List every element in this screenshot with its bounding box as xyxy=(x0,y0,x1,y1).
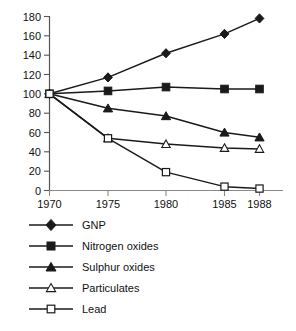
legend-item-gnp: GNP xyxy=(0,214,296,235)
x-axis-tick-labels: 1970 1975 1980 1985 1988 xyxy=(37,198,271,210)
y-tick-label: 140 xyxy=(23,49,41,61)
y-tick-label: 80 xyxy=(29,107,41,119)
data-point xyxy=(255,14,264,23)
data-point xyxy=(104,135,111,142)
legend-key-filled-square-icon xyxy=(28,238,74,254)
chart-canvas: 180 160 140 120 100 80 60 40 20 0 xyxy=(0,0,296,215)
legend-label: Sulphur oxides xyxy=(74,259,155,275)
y-tick-label: 40 xyxy=(29,146,41,158)
x-tick-label: 1985 xyxy=(212,198,236,210)
data-point xyxy=(162,169,169,176)
data-point xyxy=(104,87,112,95)
y-tick-label: 120 xyxy=(23,69,41,81)
legend-key-filled-triangle-icon xyxy=(28,259,74,275)
x-tick-label: 1975 xyxy=(96,198,120,210)
footer-text-fragment xyxy=(0,324,296,331)
legend-label: Nitrogen oxides xyxy=(74,238,158,254)
series-particulates xyxy=(45,90,263,153)
y-tick-label: 100 xyxy=(23,88,41,100)
series-layer xyxy=(45,14,264,192)
legend-label: Particulates xyxy=(74,280,139,296)
figure: 180 160 140 120 100 80 60 40 20 0 xyxy=(0,0,296,331)
data-point xyxy=(221,183,228,190)
data-point xyxy=(46,90,53,97)
y-axis-tick-labels: 180 160 140 120 100 80 60 40 20 0 xyxy=(23,11,41,197)
line-chart: 180 160 140 120 100 80 60 40 20 0 xyxy=(0,0,296,215)
data-point xyxy=(256,85,264,93)
data-point xyxy=(104,73,113,82)
data-point xyxy=(256,185,263,192)
legend-item-particulates: Particulates xyxy=(0,277,296,298)
x-tick-label: 1970 xyxy=(37,198,61,210)
legend-item-sulphur-oxides: Sulphur oxides xyxy=(0,256,296,277)
series-gnp xyxy=(45,14,264,99)
data-point xyxy=(220,29,229,38)
y-tick-label: 20 xyxy=(29,165,41,177)
legend-key-filled-diamond-icon xyxy=(28,217,74,233)
data-point xyxy=(162,83,170,91)
data-point xyxy=(221,85,229,93)
y-axis-ticks xyxy=(44,17,50,191)
legend-key-open-triangle-icon xyxy=(28,280,74,296)
legend-key-open-square-icon xyxy=(28,301,74,317)
y-tick-label: 160 xyxy=(23,30,41,42)
y-tick-label: 60 xyxy=(29,127,41,139)
x-tick-label: 1988 xyxy=(247,198,271,210)
data-point xyxy=(162,49,171,58)
series-lead xyxy=(46,90,263,192)
legend-item-nitrogen-oxides: Nitrogen oxides xyxy=(0,235,296,256)
legend-item-lead: Lead xyxy=(0,298,296,319)
legend-label: Lead xyxy=(74,301,106,317)
chart-legend: GNP Nitrogen oxides Sulphur oxides xyxy=(0,214,296,324)
x-tick-label: 1980 xyxy=(154,198,178,210)
x-axis-ticks xyxy=(50,191,260,197)
y-tick-label: 0 xyxy=(35,185,41,197)
legend-label: GNP xyxy=(74,217,106,233)
y-tick-label: 180 xyxy=(23,11,41,23)
